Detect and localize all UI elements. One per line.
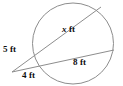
label-upper-chord: x ft (62, 25, 75, 34)
label-lower-external-unit: ft (29, 70, 35, 80)
geometry-figure: x ft 8 ft 5 ft 4 ft (0, 0, 123, 86)
label-upper-external-unit: ft (10, 44, 16, 54)
label-upper-chord-unit-text: ft (69, 24, 75, 34)
label-upper-chord-value: x (62, 24, 67, 34)
figure-canvas (0, 0, 123, 86)
label-upper-external: 5 ft (3, 45, 16, 54)
label-lower-external: 4 ft (22, 71, 35, 80)
circle-outline (33, 3, 114, 84)
label-lower-chord: 8 ft (73, 58, 86, 67)
label-lower-chord-value: 8 (73, 57, 78, 67)
label-lower-external-value: 4 (22, 70, 27, 80)
label-lower-chord-unit: ft (80, 57, 86, 67)
label-upper-external-value: 5 (3, 44, 8, 54)
